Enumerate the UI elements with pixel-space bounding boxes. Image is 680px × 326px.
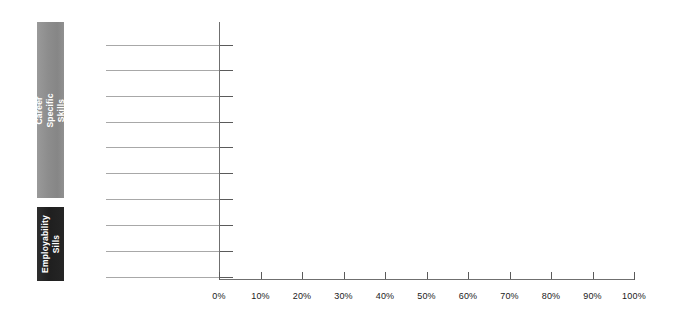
category-leader-line bbox=[106, 225, 220, 226]
x-axis-tick bbox=[219, 272, 220, 280]
y-axis-tick bbox=[220, 277, 233, 278]
y-axis-line bbox=[219, 22, 220, 280]
group-band-employability-skills: Employability Sills bbox=[37, 207, 64, 281]
category-leader-line bbox=[106, 251, 220, 252]
x-axis-tick bbox=[551, 272, 552, 279]
category-leader-line bbox=[106, 45, 220, 46]
group-band-career-specific-skills: Career Specific Skills bbox=[37, 22, 64, 198]
y-axis-tick bbox=[220, 122, 233, 123]
x-axis-tick bbox=[261, 272, 262, 279]
x-axis-tick bbox=[468, 272, 469, 279]
category-leader-line bbox=[106, 199, 220, 200]
category-leader-line bbox=[106, 173, 220, 174]
x-axis-tick-label: 30% bbox=[324, 291, 364, 301]
group-band-label-career-specific-skills: Career Specific Skills bbox=[37, 93, 64, 127]
category-leader-line bbox=[106, 277, 220, 278]
plot-area bbox=[220, 22, 635, 279]
x-axis-tick bbox=[427, 272, 428, 279]
group-band-label-employability-skills: Employability Sills bbox=[40, 215, 62, 273]
y-axis-tick bbox=[220, 173, 233, 174]
x-axis-tick-label: 50% bbox=[407, 291, 447, 301]
y-axis-tick bbox=[220, 199, 233, 200]
x-axis-tick-label: 20% bbox=[282, 291, 322, 301]
y-axis-tick bbox=[220, 147, 233, 148]
x-axis-tick bbox=[593, 272, 594, 279]
x-axis-tick-label: 10% bbox=[241, 291, 281, 301]
chart-screenshot: Career Specific Skills Employability Sil… bbox=[0, 0, 680, 326]
category-leader-line bbox=[106, 147, 220, 148]
x-axis-tick-label: 60% bbox=[448, 291, 488, 301]
category-leader-line bbox=[106, 70, 220, 71]
x-axis-tick bbox=[344, 272, 345, 279]
x-axis-tick-label: 0% bbox=[199, 291, 239, 301]
y-axis-tick bbox=[220, 225, 233, 226]
x-axis-tick-label: 80% bbox=[531, 291, 571, 301]
x-axis-tick bbox=[385, 272, 386, 279]
x-axis-tick bbox=[302, 272, 303, 279]
y-axis-tick bbox=[220, 45, 233, 46]
x-axis-tick-label: 40% bbox=[365, 291, 405, 301]
category-leader-line bbox=[106, 122, 220, 123]
y-axis-tick bbox=[220, 96, 233, 97]
category-leader-line bbox=[106, 96, 220, 97]
x-axis-tick-label: 70% bbox=[490, 291, 530, 301]
x-axis-line bbox=[219, 279, 635, 280]
y-axis-tick bbox=[220, 70, 233, 71]
x-axis-tick-label: 100% bbox=[614, 291, 654, 301]
x-axis-tick bbox=[510, 272, 511, 279]
y-axis-tick bbox=[220, 251, 233, 252]
x-axis-tick-label: 90% bbox=[573, 291, 613, 301]
x-axis-tick bbox=[634, 272, 635, 280]
